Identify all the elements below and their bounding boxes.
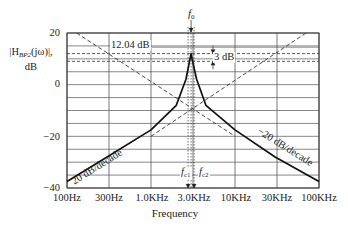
- x-tick-10khz: 10KHz: [221, 193, 251, 204]
- x-tick-1khz: 1.0KHz: [136, 193, 169, 204]
- y-label-unit: dB: [25, 61, 37, 72]
- x-axis-label: Frequency: [152, 208, 198, 219]
- bandwidth-3db-label: 3 dB: [213, 52, 235, 63]
- f0-label: f0: [188, 8, 195, 21]
- fc2-label: fc2: [198, 167, 210, 179]
- y-label-main: |HBP2(jω)|,: [9, 46, 52, 57]
- y-tick-20: 20: [42, 28, 60, 39]
- fc1-label: fc1: [180, 167, 192, 179]
- arrow-icon: [189, 28, 193, 32]
- y-tick-0: 0: [42, 79, 60, 90]
- peak-gain-label: 12.04 dB: [110, 40, 151, 51]
- x-tick-100khz: 100KHz: [301, 193, 337, 204]
- x-tick-30khz: 30KHz: [262, 193, 292, 204]
- y-tick-minus20: −20: [38, 132, 60, 143]
- y-axis-label: |HBP2(jω)|, dB: [3, 46, 59, 73]
- x-tick-100hz: 100Hz: [53, 193, 81, 204]
- arrow-icon: [186, 184, 190, 188]
- x-tick-300hz: 300Hz: [95, 193, 123, 204]
- x-tick-3khz: 3.0KHz: [178, 193, 211, 204]
